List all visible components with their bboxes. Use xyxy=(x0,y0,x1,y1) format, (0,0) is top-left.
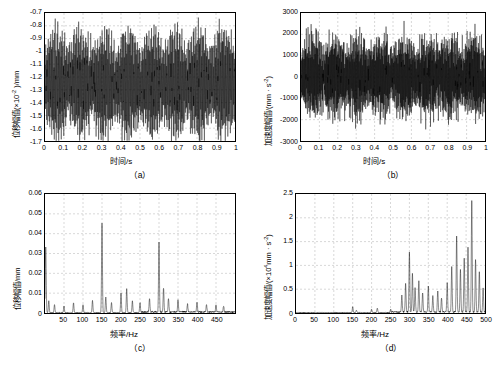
y-tick-label: 0 xyxy=(268,73,298,80)
y-tick-label: -3000 xyxy=(268,138,298,145)
y-tick-label: 2000 xyxy=(268,29,298,36)
panel-d-caption: （d） xyxy=(361,341,421,353)
x-tick-label: 1 xyxy=(224,144,248,151)
y-tick-label: 2 xyxy=(263,213,293,220)
y-tick-label: -2000 xyxy=(268,116,298,123)
y-tick-label: 0.05 xyxy=(12,209,42,216)
x-tick-label: 1 xyxy=(474,144,498,151)
panel-a-xlabel: 时间/s xyxy=(110,155,132,166)
panel-c: 位移幅值/mm 50100150200250300350400450 00.01… xyxy=(0,183,250,366)
y-tick-label: 0 xyxy=(263,310,293,317)
y-tick-label: 0.02 xyxy=(12,269,42,276)
panel-b: 加速度幅值/(mm · s-2) 00.10.20.30.40.50.60.70… xyxy=(249,0,499,180)
panel-c-plot xyxy=(44,193,236,314)
y-tick-label: -1000 xyxy=(268,94,298,101)
y-tick-label: 0.06 xyxy=(12,189,42,196)
y-tick-label: 1000 xyxy=(268,51,298,58)
y-tick-label: -1.2 xyxy=(12,73,42,80)
panel-a: 位移幅值(×10-2 )/mm 00.10.20.30.40.50.60.70.… xyxy=(0,0,250,180)
panel-c-caption: （c） xyxy=(110,341,170,353)
panel-a-caption: （a） xyxy=(110,168,170,180)
y-tick-label: 0.01 xyxy=(12,289,42,296)
panel-b-xlabel: 时间/s xyxy=(363,155,385,166)
y-tick-label: -0.7 xyxy=(12,8,42,15)
panel-b-caption: （b） xyxy=(363,168,423,180)
y-tick-label: -1.3 xyxy=(12,86,42,93)
panel-d-xlabel: 频率/Hz xyxy=(361,328,389,339)
panel-b-ylabel: 加速度幅值/(mm · s-2) xyxy=(262,76,273,146)
y-tick-label: -1.6 xyxy=(12,125,42,132)
y-tick-label: -0.8 xyxy=(12,21,42,28)
panel-a-plot xyxy=(44,12,236,142)
x-tick-label: 450 xyxy=(205,316,229,323)
panel-d-ylabel: 加速度幅值/(×104mm · s-2) xyxy=(262,234,273,320)
panel-c-xlabel: 频率/Hz xyxy=(110,328,138,339)
panel-d: 加速度幅值/(×104mm · s-2) 0501001502002503003… xyxy=(249,183,499,366)
y-tick-label: 0.03 xyxy=(12,249,42,256)
y-tick-label: -1 xyxy=(12,47,42,54)
y-tick-label: 2.5 xyxy=(263,189,293,196)
y-tick-label: -1.4 xyxy=(12,99,42,106)
figure-container: 位移幅值(×10-2 )/mm 00.10.20.30.40.50.60.70.… xyxy=(0,0,499,366)
y-tick-label: -1.7 xyxy=(12,138,42,145)
y-tick-label: -1.1 xyxy=(12,60,42,67)
y-tick-label: 3000 xyxy=(268,8,298,15)
x-tick-label: 500 xyxy=(474,316,498,323)
y-tick-label: -1.5 xyxy=(12,112,42,119)
y-tick-label: 0.5 xyxy=(263,285,293,292)
y-tick-label: 0.04 xyxy=(12,229,42,236)
y-tick-label: -0.9 xyxy=(12,34,42,41)
y-tick-label: 1 xyxy=(263,261,293,268)
panel-b-plot xyxy=(300,12,486,142)
y-tick-label: 1.5 xyxy=(263,237,293,244)
panel-d-plot xyxy=(295,193,486,314)
y-tick-label: 0 xyxy=(12,310,42,317)
